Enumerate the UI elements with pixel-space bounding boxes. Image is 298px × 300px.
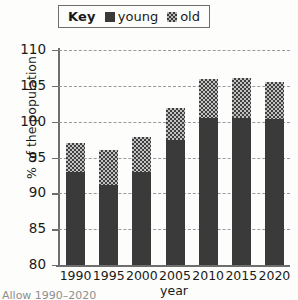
- bar-segment-young: [132, 172, 151, 265]
- bar-2010: [199, 79, 218, 265]
- bar-2015: [232, 78, 251, 265]
- checkered-square-icon: [167, 12, 177, 22]
- x-tick-label: 2020: [257, 268, 291, 283]
- y-tick-label: 95: [6, 151, 46, 165]
- y-tick-label: 110: [6, 43, 46, 57]
- bar-segment-old: [265, 82, 284, 119]
- x-tick-label: 2000: [125, 268, 159, 283]
- bar-segment-old: [199, 79, 218, 118]
- bar-segment-old: [66, 143, 85, 172]
- y-tick-label: 100: [6, 115, 46, 129]
- plot-area: [58, 50, 290, 265]
- bar-1995: [99, 150, 118, 265]
- chart-legend: Key young old: [58, 5, 210, 28]
- legend-label-young: young: [118, 9, 158, 24]
- x-tick-label: 2015: [224, 268, 258, 283]
- bar-segment-young: [232, 118, 251, 265]
- bar-segment-old: [99, 150, 118, 184]
- legend-title: Key: [68, 9, 96, 24]
- bar-2020: [265, 82, 284, 265]
- bar-segment-old: [166, 108, 185, 140]
- y-tick-label: 105: [6, 79, 46, 93]
- bar-2000: [132, 137, 151, 265]
- x-tick-label: 2005: [158, 268, 192, 283]
- bar-2005: [166, 108, 185, 265]
- bar-1990: [66, 143, 85, 265]
- bar-segment-young: [166, 140, 185, 265]
- bar-segment-old: [132, 137, 151, 171]
- y-tick-mark: [52, 265, 59, 266]
- bar-segment-young: [99, 185, 118, 265]
- chart-root: Key young old % of the population year 8…: [0, 0, 298, 300]
- bar-segment-young: [265, 119, 284, 265]
- legend-label-old: old: [180, 9, 200, 24]
- y-tick-label: 90: [6, 186, 46, 200]
- x-axis-line: [56, 265, 290, 267]
- y-tick-label: 80: [6, 258, 46, 272]
- bar-segment-young: [66, 172, 85, 265]
- bar-segment-old: [232, 78, 251, 118]
- bar-segment-young: [199, 118, 218, 265]
- y-tick-label: 85: [6, 222, 46, 236]
- x-tick-label: 2010: [191, 268, 225, 283]
- legend-entry-old: old: [167, 9, 200, 24]
- x-tick-label: 1995: [92, 268, 126, 283]
- legend-entry-young: young: [105, 9, 158, 24]
- x-tick-label: 1990: [59, 268, 93, 283]
- figure-caption: Allow 1990–2020: [2, 289, 152, 300]
- solid-dark-square-icon: [105, 12, 115, 22]
